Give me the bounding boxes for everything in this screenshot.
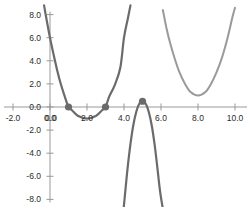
chart-container: -2.00.02.04.06.08.010.0-8.0-6.0-4.0-2.00… — [0, 0, 251, 207]
curve-upward-parabola-left — [44, 5, 130, 118]
x-axis-tick-label: 10.0 — [227, 113, 244, 123]
x-axis-tick-label: 2.0 — [81, 113, 93, 123]
markers-layer — [65, 98, 146, 111]
data-point-root-right — [102, 103, 109, 110]
x-axis-tick-label: 4.0 — [118, 113, 130, 123]
series-layer — [44, 5, 235, 207]
y-axis-tick-label: 4.0 — [29, 56, 41, 66]
data-point-vertex-max — [139, 98, 146, 105]
y-axis-tick-label: -8.0 — [26, 194, 41, 204]
y-axis-tick-label: -6.0 — [26, 171, 41, 181]
y-axis-tick-label: -4.0 — [26, 148, 41, 158]
origin-label: 0.0 — [45, 113, 57, 123]
curve-upward-parabola-right — [163, 8, 235, 96]
y-axis-tick-label: 8.0 — [29, 10, 41, 20]
data-point-root-left — [65, 103, 72, 110]
x-axis-tick-label: 8.0 — [192, 113, 204, 123]
y-axis-tick-label: -2.0 — [26, 125, 41, 135]
y-axis-tick-label: 0.0 — [29, 102, 41, 112]
y-axis-tick-label: 6.0 — [29, 33, 41, 43]
x-axis-tick-label: 6.0 — [155, 113, 167, 123]
x-axis-tick-label: -2.0 — [6, 113, 21, 123]
chart-plot-area: -2.00.02.04.06.08.010.0-8.0-6.0-4.0-2.00… — [0, 0, 251, 207]
y-axis-tick-label: 2.0 — [29, 79, 41, 89]
